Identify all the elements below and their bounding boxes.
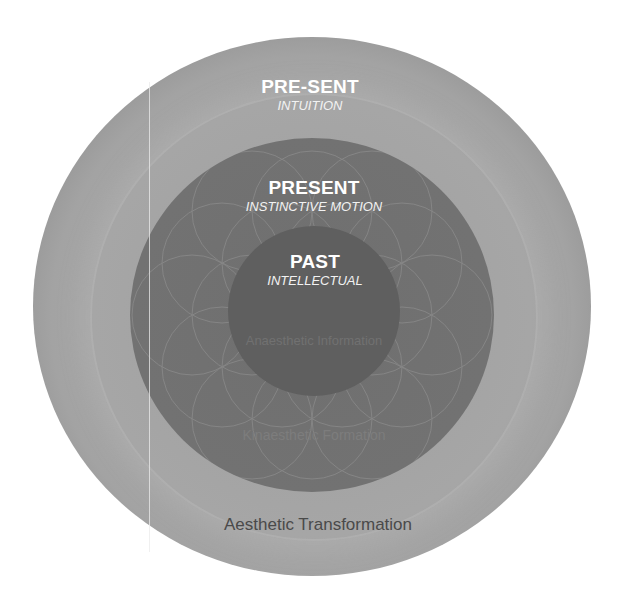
inner-ring-title: PAST	[290, 251, 340, 273]
outer-ring-title: PRE-SENT	[261, 76, 359, 98]
middle-ring-title: PRESENT	[268, 177, 359, 199]
middle-ring-label: Kinaesthetic Formation	[242, 427, 385, 443]
inner-ring-label: Anaesthetic Information	[246, 333, 383, 348]
divider-line	[149, 82, 150, 552]
concentric-diagram: PRE-SENT INTUITION PRESENT INSTINCTIVE M…	[0, 0, 618, 605]
outer-ring-subtitle: INTUITION	[278, 98, 343, 113]
outer-ring-label: Aesthetic Transformation	[224, 515, 412, 535]
middle-ring-subtitle: INSTINCTIVE MOTION	[246, 199, 383, 214]
inner-ring-subtitle: INTELLECTUAL	[267, 273, 362, 288]
